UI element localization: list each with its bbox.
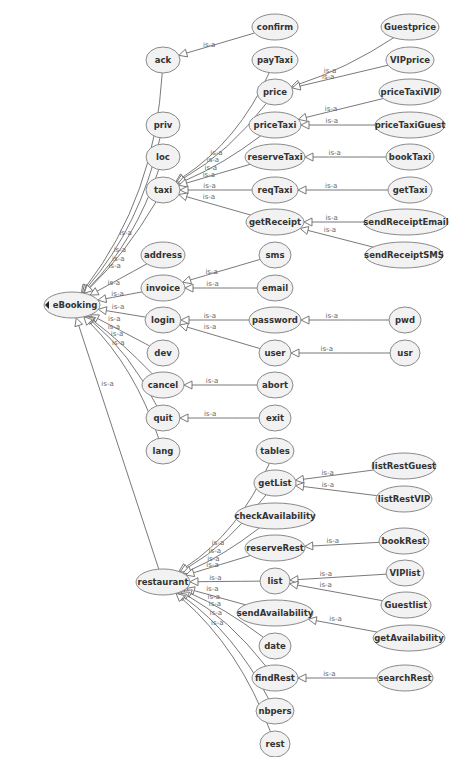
node-label: Guestlist [385,600,428,610]
edge-label: is-a [209,574,221,582]
node-lang[interactable]: lang [146,438,180,464]
node-sendReceiptSMS[interactable]: sendReceiptSMS [364,242,444,268]
edge-label: is-a [203,182,215,190]
node-label: exit [266,413,284,423]
node-reserveTaxi[interactable]: reserveTaxi [245,144,305,170]
node-user[interactable]: user [259,340,291,366]
node-label: email [262,283,288,293]
node-payTaxi[interactable]: payTaxi [252,47,298,73]
edge-bookRest-reserveRest: is-a [305,537,379,550]
node-listRestVIP[interactable]: listRestVIP [376,486,432,512]
hollow-arrowhead-icon [181,316,189,324]
edge-line [190,259,260,280]
node-VIPlist[interactable]: VIPlist [386,560,424,586]
edge-user-login: is-a [180,323,260,348]
edge-label: is-a [321,345,333,353]
node-abort[interactable]: abort [257,372,293,398]
node-bookRest[interactable]: bookRest [379,528,429,554]
node-label: sendReceiptSMS [364,250,444,260]
node-checkAvailability[interactable]: checkAvailability [234,503,316,529]
node-priceTaxi[interactable]: priceTaxi [249,112,301,138]
node-label: confirm [257,22,293,32]
node-priv[interactable]: priv [146,112,180,138]
edge-label: is-a [210,609,222,617]
node-label: eBooking [53,300,98,310]
edge-label: is-a [320,570,332,578]
node-searchRest[interactable]: searchRest [377,665,433,691]
node-date[interactable]: date [259,633,291,659]
node-findRest[interactable]: findRest [252,665,298,691]
node-label: priceTaxiVIP [381,87,440,97]
node-label: reserveTaxi [247,152,302,162]
node-loc[interactable]: loc [146,144,180,170]
edge-line [308,230,373,247]
node-reserveRest[interactable]: reserveRest [245,535,305,561]
node-nbpers[interactable]: nbpers [256,698,294,724]
node-priceTaxiVIP[interactable]: priceTaxiVIP [379,79,441,105]
node-cancel[interactable]: cancel [142,372,184,398]
hollow-arrowhead-icon [179,49,188,57]
node-label: password [252,315,298,325]
edge-sendReceiptEmail-getReceipt: is-a [304,214,364,226]
node-pwd[interactable]: pwd [389,307,421,333]
node-label: ack [155,55,172,65]
node-reqTaxi[interactable]: reqTaxi [252,177,298,203]
node-exit[interactable]: exit [259,405,291,431]
node-getReceipt[interactable]: getReceipt [246,209,304,235]
node-label: listRestVIP [378,494,430,504]
node-getList[interactable]: getList [254,470,296,496]
node-tables[interactable]: tables [256,438,294,464]
edge-line [187,327,260,348]
edge-label: is-a [329,615,341,623]
node-dev[interactable]: dev [147,340,179,366]
edge-line [303,470,373,479]
node-sendAvailability[interactable]: sendAvailability [237,600,314,626]
edge-password-login: is-a [181,312,249,324]
edge-email-invoice: is-a [185,280,257,292]
edge-line [187,197,251,215]
edge-label: is-a [203,41,215,49]
node-label: lang [153,446,174,456]
edge-line [198,581,260,582]
node-priceTaxiGuest[interactable]: priceTaxiGuest [375,112,446,138]
edge-line [187,164,251,183]
node-label: VIPlist [390,568,421,578]
edge-list-restaurant: is-a [190,574,260,586]
node-password[interactable]: password [249,307,301,333]
node-eBooking[interactable]: eBooking [44,292,100,318]
node-restaurant[interactable]: restaurant [136,569,190,595]
node-Guestprice[interactable]: Guestprice [381,14,439,40]
node-taxi[interactable]: taxi [146,177,180,203]
node-quit[interactable]: quit [146,405,180,431]
node-sendReceiptEmail[interactable]: sendReceiptEmail [363,209,448,235]
node-usr[interactable]: usr [390,340,420,366]
node-getAvailability[interactable]: getAvailability [373,625,445,651]
node-address[interactable]: address [141,242,185,268]
node-list[interactable]: list [260,568,290,594]
node-confirm[interactable]: confirm [252,14,298,40]
node-label: reqTaxi [258,185,293,195]
node-rest[interactable]: rest [260,731,290,757]
node-VIPprice[interactable]: VIPprice [386,47,434,73]
edge-line [97,264,147,291]
node-sms[interactable]: sms [259,242,291,268]
node-label: sendAvailability [237,608,314,618]
edge-getAvailability-sendAvailability: is-a [308,615,377,632]
node-label: loc [156,152,170,162]
edge-label: is-a [111,290,123,298]
node-bookTaxi[interactable]: bookTaxi [386,144,434,170]
node-getTaxi[interactable]: getTaxi [388,177,432,203]
edge-line [298,585,383,601]
node-invoice[interactable]: invoice [141,275,185,301]
node-email[interactable]: email [257,275,293,301]
edge-label: is-a [322,481,334,489]
node-login[interactable]: login [145,307,181,333]
node-Guestlist[interactable]: Guestlist [381,592,431,618]
edge-getTaxi-reqTaxi: is-a [298,182,388,194]
edge-label: is-a [323,670,335,678]
node-label: nbpers [258,706,291,716]
node-ack[interactable]: ack [146,47,180,73]
node-label: abort [262,380,288,390]
node-listRestGuest[interactable]: listRestGuest [372,453,436,479]
node-price[interactable]: price [257,79,293,105]
